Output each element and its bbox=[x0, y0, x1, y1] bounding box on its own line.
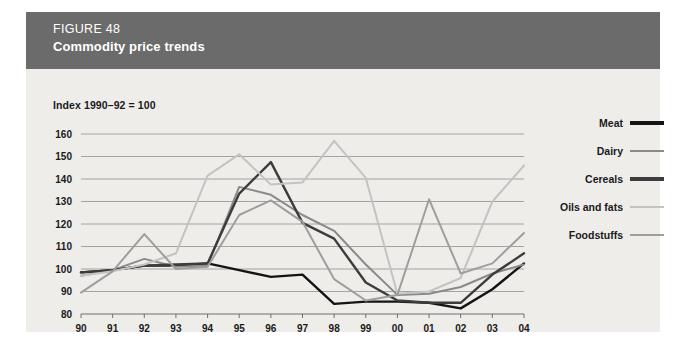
svg-text:97: 97 bbox=[297, 323, 309, 332]
legend-item-meat[interactable]: Meat bbox=[546, 109, 664, 137]
legend-item-label: Meat bbox=[599, 117, 623, 129]
svg-text:150: 150 bbox=[55, 151, 72, 162]
legend-color-swatch bbox=[630, 177, 664, 181]
legend-color-swatch bbox=[630, 234, 664, 237]
svg-text:95: 95 bbox=[234, 323, 246, 332]
svg-text:110: 110 bbox=[56, 241, 73, 252]
svg-text:140: 140 bbox=[55, 174, 72, 185]
legend-item-label: Cereals bbox=[585, 173, 623, 185]
svg-text:96: 96 bbox=[265, 323, 277, 332]
data-series-group bbox=[81, 141, 524, 309]
legend-item-label: Foodstuffs bbox=[569, 229, 623, 241]
svg-text:120: 120 bbox=[55, 219, 72, 230]
plot-region: Index 1990–92 = 100 80901001101201301401… bbox=[26, 69, 660, 332]
svg-text:80: 80 bbox=[61, 309, 73, 320]
svg-text:90: 90 bbox=[75, 323, 87, 332]
legend-color-swatch bbox=[630, 150, 664, 153]
legend-item-foodstuffs[interactable]: Foodstuffs bbox=[546, 221, 664, 249]
legend-item-dairy[interactable]: Dairy bbox=[546, 137, 664, 165]
legend-color-swatch bbox=[630, 121, 664, 125]
svg-text:02: 02 bbox=[455, 323, 467, 332]
legend-item-oils-and-fats[interactable]: Oils and fats bbox=[546, 193, 664, 221]
svg-text:90: 90 bbox=[61, 286, 73, 297]
svg-text:160: 160 bbox=[55, 129, 72, 140]
svg-text:99: 99 bbox=[360, 323, 372, 332]
figure-card: FIGURE 48 Commodity price trends Index 1… bbox=[26, 12, 660, 332]
svg-text:00: 00 bbox=[392, 323, 404, 332]
svg-text:04: 04 bbox=[518, 323, 530, 332]
svg-text:100: 100 bbox=[55, 264, 72, 275]
svg-text:130: 130 bbox=[55, 196, 72, 207]
figure-number: FIGURE 48 bbox=[53, 21, 660, 37]
x-axis bbox=[81, 314, 524, 318]
y-axis-tick-labels: 8090100110120130140150160 bbox=[55, 129, 72, 320]
legend-item-cereals[interactable]: Cereals bbox=[546, 165, 664, 193]
svg-text:98: 98 bbox=[329, 323, 341, 332]
legend-color-swatch bbox=[630, 206, 664, 209]
figure-title: Commodity price trends bbox=[53, 38, 660, 56]
svg-text:93: 93 bbox=[170, 323, 182, 332]
svg-text:01: 01 bbox=[424, 323, 436, 332]
svg-text:03: 03 bbox=[487, 323, 499, 332]
svg-text:92: 92 bbox=[139, 323, 151, 332]
svg-text:91: 91 bbox=[107, 323, 119, 332]
legend-item-label: Dairy bbox=[597, 145, 623, 157]
svg-text:94: 94 bbox=[202, 323, 214, 332]
chart-legend: MeatDairyCerealsOils and fatsFoodstuffs bbox=[546, 109, 664, 249]
legend-item-label: Oils and fats bbox=[560, 201, 623, 213]
series-line-oils-and-fats bbox=[81, 141, 524, 294]
figure-header: FIGURE 48 Commodity price trends bbox=[26, 12, 660, 69]
x-axis-tick-labels: 909192939495969798990001020304 bbox=[75, 323, 530, 332]
